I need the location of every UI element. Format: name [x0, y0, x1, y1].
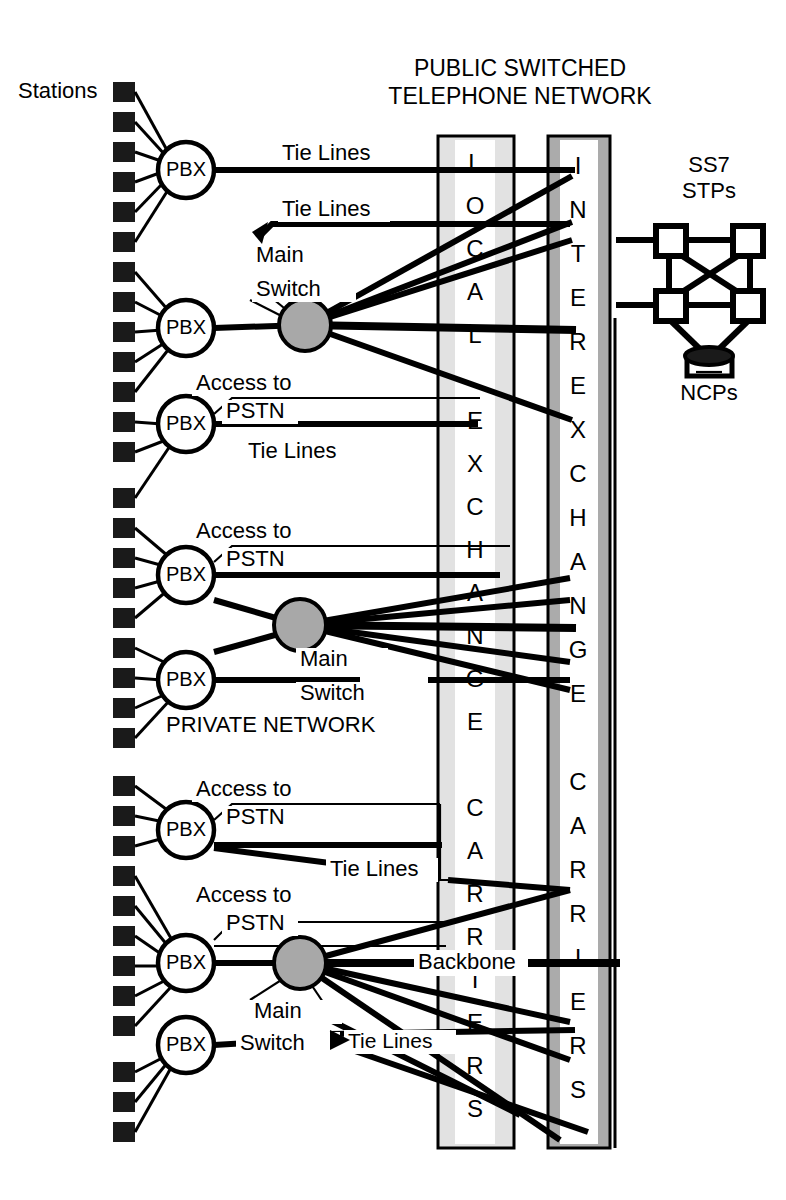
lec-letter: L: [468, 149, 481, 176]
tie-lines-text: Tie Lines: [248, 438, 336, 463]
access-line1: Access to: [196, 882, 291, 907]
station-box: [113, 172, 135, 192]
station-box: [113, 82, 135, 102]
main-switch-line1: Main: [256, 242, 304, 267]
pstn-title-line1: PUBLIC SWITCHED: [414, 55, 626, 81]
main-switch-line2: Switch: [300, 680, 365, 705]
tie-lines-text: Tie Lines: [282, 196, 370, 221]
ixc-letter: E: [570, 284, 586, 311]
station-box: [113, 142, 135, 162]
station-box: [113, 548, 135, 568]
ixc-letter: N: [569, 196, 586, 223]
station-box: [113, 728, 135, 748]
ixc-letter: R: [569, 900, 586, 927]
pbx-label: PBX: [166, 818, 206, 840]
pbx-node-6[interactable]: PBX: [158, 802, 214, 858]
pbx-node-2[interactable]: PBX: [158, 300, 214, 356]
ncp-database[interactable]: [685, 347, 733, 376]
lec-letter: R: [466, 880, 483, 907]
tie-lines-text: Tie Lines: [282, 140, 370, 165]
lec-letter: C: [466, 235, 483, 262]
stp-box-1[interactable]: [656, 226, 686, 256]
private-network-text: PRIVATE NETWORK: [166, 712, 376, 737]
station-box: [113, 986, 135, 1006]
ixc-letter: R: [569, 856, 586, 883]
access-line2: PSTN: [226, 546, 285, 571]
lec-letter: G: [466, 665, 485, 692]
access-line2: PSTN: [226, 398, 285, 423]
station-box: [113, 262, 135, 282]
station-box: [113, 1062, 135, 1082]
private-network-label: PRIVATE NETWORK: [162, 712, 394, 740]
ixc-letter: A: [570, 548, 586, 575]
main-switch-line2: Switch: [240, 1030, 305, 1055]
tie-lines-label-1: Tie Lines: [278, 140, 390, 166]
trunk-ms2-c: [300, 625, 576, 628]
station-box: [113, 322, 135, 342]
main-switch-line1: Main: [300, 646, 348, 671]
station-box: [113, 442, 135, 462]
station-box: [113, 518, 135, 538]
station-box: [113, 956, 135, 976]
pbx-label: PBX: [166, 563, 206, 585]
station-box: [113, 668, 135, 688]
main-switch-node-3[interactable]: [274, 937, 326, 989]
station-box: [113, 806, 135, 826]
stp-box-2[interactable]: [733, 226, 763, 256]
lec-letter: C: [466, 493, 483, 520]
pbx-label: PBX: [166, 158, 206, 180]
main-switch-line1: Main: [254, 998, 302, 1023]
access-line1: Access to: [196, 518, 291, 543]
ss7-label-line2: STPs: [682, 178, 736, 203]
lec-letter: H: [466, 536, 483, 563]
pbx-node-1[interactable]: PBX: [158, 142, 214, 198]
ixc-letter: I: [575, 944, 582, 971]
stp-box-3[interactable]: [656, 291, 686, 321]
tie-lines-text: Tie Lines: [330, 856, 418, 881]
station-box: [113, 1092, 135, 1112]
pbx-node-3[interactable]: PBX: [158, 396, 214, 452]
tie-lines-label-3: Tie Lines: [244, 438, 356, 464]
lec-letter: X: [467, 450, 483, 477]
pbx-label: PBX: [166, 951, 206, 973]
access-line1: Access to: [196, 776, 291, 801]
station-box: [113, 1016, 135, 1036]
station-box: [113, 232, 135, 252]
stations-label: Stations: [18, 78, 98, 103]
pbx-label: PBX: [166, 412, 206, 434]
lec-letter: C: [466, 794, 483, 821]
main-switch-line2: Switch: [256, 276, 321, 301]
lec-letter: L: [468, 321, 481, 348]
ixc-letter: G: [569, 636, 588, 663]
ixc-letter: R: [569, 328, 586, 355]
station-box: [113, 638, 135, 658]
lec-letter: O: [466, 192, 485, 219]
ixc-letter: E: [570, 372, 586, 399]
pbx-node-5[interactable]: PBX: [158, 652, 214, 708]
lec-letter: N: [466, 622, 483, 649]
lec-letter: R: [466, 1052, 483, 1079]
network-diagram: PUBLIC SWITCHED TELEPHONE NETWORK Statio…: [0, 0, 786, 1200]
main-switch-node-2[interactable]: [274, 599, 326, 651]
station-box: [113, 352, 135, 372]
station-box: [113, 866, 135, 886]
access-line2: PSTN: [226, 910, 285, 935]
ixc-letter: T: [571, 240, 586, 267]
station-box: [113, 112, 135, 132]
stp-box-4[interactable]: [733, 291, 763, 321]
ixc-letter: X: [570, 416, 586, 443]
main-switch-node-1[interactable]: [279, 299, 331, 351]
lec-letter: A: [467, 278, 483, 305]
lec-letter: A: [467, 579, 483, 606]
backbone-text: Backbone: [418, 949, 516, 974]
station-box: [113, 896, 135, 916]
pbx-node-7[interactable]: PBX: [158, 935, 214, 991]
network-diagram-canvas: PUBLIC SWITCHED TELEPHONE NETWORK Statio…: [0, 0, 786, 1200]
station-box: [113, 578, 135, 598]
tie-lines-label-5: Tie Lines: [344, 1029, 456, 1054]
pbx-node-8[interactable]: PBX: [158, 1017, 214, 1073]
pbx-node-4[interactable]: PBX: [158, 547, 214, 603]
ncp-label: NCPs: [680, 380, 737, 405]
backbone-label: Backbone: [414, 949, 528, 976]
ixc-letter: R: [569, 1032, 586, 1059]
